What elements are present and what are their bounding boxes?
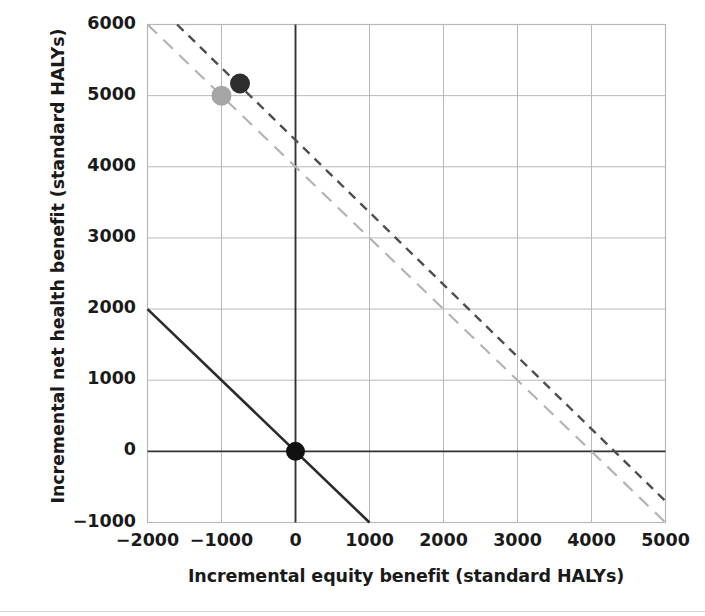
chart-figure: −10000100020003000400050006000 −2000−100… (0, 0, 705, 616)
figure-footer-rule (0, 611, 705, 612)
dark-scenario-point (230, 74, 250, 94)
origin-point (286, 442, 305, 461)
grey-scenario-point (212, 86, 232, 106)
y-axis-title: Incremental net health benefit (standard… (48, 6, 68, 526)
x-axis-title: Incremental equity benefit (standard HAL… (147, 566, 665, 586)
x-tick-label: 5000 (621, 530, 705, 550)
